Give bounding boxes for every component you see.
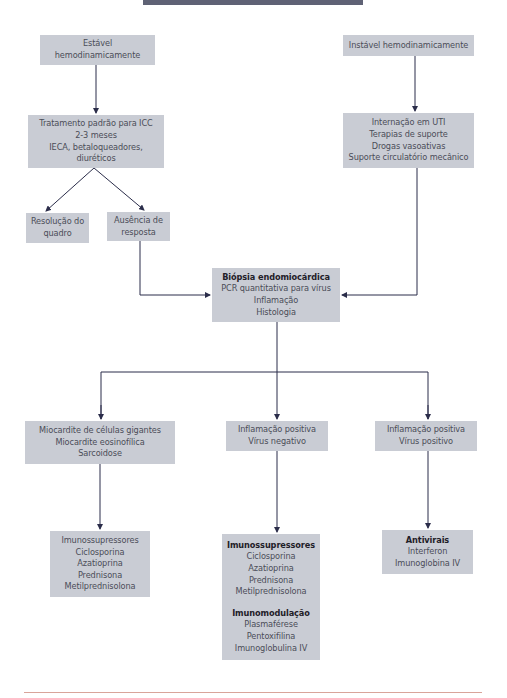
- node-resolution: Resolução do quadro: [26, 213, 89, 243]
- node-immuno-middle-a-4: Metilprednisolona: [235, 586, 306, 598]
- node-standard-treatment: Tratamento padrão para ICC 2-3 meses IEC…: [28, 115, 164, 168]
- node-immuno-middle: Imunossupressores Ciclosporina Azatiopri…: [222, 534, 320, 660]
- node-standard-treatment-line-3: IECA, betaloqueadores,: [49, 142, 142, 154]
- node-standard-treatment-line-1: Tratamento padrão para ICC: [39, 118, 152, 130]
- node-giant-cell-line-1: Miocardite de células gigantes: [39, 425, 161, 437]
- node-immuno-middle-a-1: Ciclosporina: [247, 551, 296, 563]
- node-virus-negative-line-1: Inflamação positiva: [238, 424, 316, 436]
- node-icu-line-2: Terapias de suporte: [369, 129, 448, 141]
- node-immuno-middle-a-2: Azatioprina: [248, 563, 293, 575]
- node-icu-line-3: Drogas vasoativas: [372, 141, 446, 153]
- node-antivirals-title: Antivirais: [406, 535, 449, 547]
- node-immuno-middle-a-3: Prednisona: [249, 575, 293, 587]
- node-virus-negative-line-2: Vírus negativo: [248, 436, 306, 448]
- node-resolution-line-1: Resolução do: [31, 216, 84, 228]
- node-immuno-middle-title-1: Imunossupressores: [227, 540, 315, 552]
- node-immuno-middle-title-2: Imunomodulação: [232, 608, 310, 620]
- node-giant-cell: Miocardite de células gigantes Miocardit…: [25, 421, 175, 464]
- node-antivirals-line-2: Imunoglobina IV: [395, 558, 460, 570]
- node-no-response-line-2: resposta: [121, 227, 155, 239]
- node-stable: Estável hemodinamicamente: [40, 35, 155, 65]
- node-immuno-middle-b-3: Imunoglobulina IV: [235, 643, 307, 655]
- node-immuno-middle-b-1: Plasmaférese: [244, 619, 298, 631]
- node-antivirals-line-1: Interferon: [408, 546, 448, 558]
- node-no-response-line-1: Ausência de: [114, 215, 163, 227]
- node-unstable: Instável hemodinamicamente: [343, 35, 474, 56]
- node-biopsy-line-2: Inflamação: [254, 295, 298, 307]
- node-biopsy: Biópsia endomiocárdica PCR quantitativa …: [212, 268, 340, 322]
- node-stable-line-2: hemodinamicamente: [55, 50, 140, 62]
- node-immunosuppressors-left-line-4: Prednisona: [78, 570, 122, 582]
- node-immunosuppressors-left-line-5: Metilprednisolona: [64, 581, 135, 593]
- node-resolution-line-2: quadro: [43, 228, 71, 240]
- node-immunosuppressors-left-line-1: Imunossupressores: [61, 535, 138, 547]
- node-icu-line-1: Internação em UTI: [372, 117, 446, 129]
- node-virus-positive-line-1: Inflamação positiva: [387, 424, 465, 436]
- node-stable-line-1: Estável: [83, 38, 112, 50]
- node-unstable-line-1: Instável hemodinamicamente: [349, 40, 468, 52]
- footer-rule: [24, 692, 482, 693]
- node-biopsy-title: Biópsia endomiocárdica: [222, 272, 330, 284]
- node-standard-treatment-line-2: 2-3 meses: [75, 130, 117, 142]
- node-icu: Internação em UTI Terapias de suporte Dr…: [343, 113, 474, 168]
- node-immunosuppressors-left-line-3: Azatioprina: [77, 558, 122, 570]
- node-icu-line-4: Suporte circulatório mecânico: [349, 152, 469, 164]
- node-giant-cell-line-2: Miocardite eosinofílica: [55, 437, 144, 449]
- node-virus-positive-line-2: Vírus positivo: [399, 436, 453, 448]
- node-antivirals: Antivirais Interferon Imunoglobina IV: [382, 530, 473, 574]
- node-biopsy-line-3: Histologia: [256, 307, 296, 319]
- node-biopsy-line-1: PCR quantitativa para vírus: [221, 283, 331, 295]
- node-immunosuppressors-left-line-2: Ciclosporina: [76, 547, 125, 559]
- node-standard-treatment-line-4: diuréticos: [76, 153, 115, 165]
- node-virus-positive: Inflamação positiva Vírus positivo: [375, 421, 477, 451]
- node-no-response: Ausência de resposta: [107, 212, 170, 241]
- node-immunosuppressors-left: Imunossupressores Ciclosporina Azatiopri…: [50, 531, 150, 597]
- node-giant-cell-line-3: Sarcoidose: [78, 448, 122, 460]
- node-virus-negative: Inflamação positiva Vírus negativo: [226, 421, 328, 451]
- node-immuno-middle-b-2: Pentoxifilina: [247, 631, 296, 643]
